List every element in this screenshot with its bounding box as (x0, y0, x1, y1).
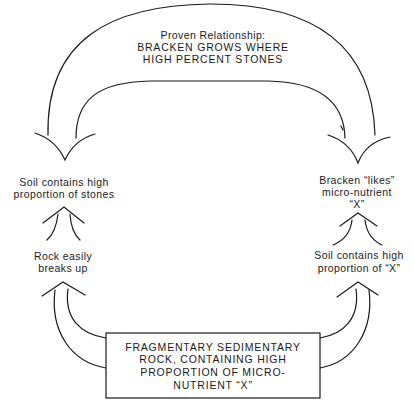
right-middle-arrow (333, 213, 382, 245)
bottom-left-arrow-inner-line (67, 289, 106, 338)
bottom-left-arrow (42, 282, 106, 368)
source-box-line-1: FRAGMENTARY SEDIMENTARY (125, 341, 301, 353)
left-middle-arrow (43, 207, 84, 240)
node-bracken-likes-line-3: “X” (349, 198, 364, 210)
left-middle-arrowhead-icon (43, 207, 84, 223)
top-arrow-inner-line (76, 81, 345, 138)
top-right-arrowhead-icon (328, 135, 390, 163)
node-soil-x: Soil contains high proportion of “X” (314, 249, 404, 274)
node-soil-stones-line-1: Soil contains high (19, 176, 109, 188)
right-middle-arrowhead-icon (340, 213, 377, 226)
node-soil-x-line-2: proportion of “X” (318, 262, 401, 274)
node-soil-stones-line-2: proportion of stones (14, 188, 115, 200)
top-right-tick-mark (341, 126, 343, 130)
relationship-line-2: HIGH PERCENT STONES (143, 53, 283, 65)
node-bracken-likes-line-1: Bracken “likes” (319, 174, 395, 186)
bottom-left-arrowhead-icon (42, 282, 85, 296)
bottom-right-arrow-outer-line (320, 290, 370, 368)
bottom-left-arrow-outer-line (54, 290, 106, 368)
node-rock-breaks-line-1: Rock easily (34, 250, 92, 262)
node-bracken-likes-line-2: micro-nutrient (322, 186, 392, 198)
top-left-arrowhead-icon (35, 133, 95, 160)
source-box: FRAGMENTARY SEDIMENTARY ROCK, CONTAINING… (106, 333, 320, 398)
node-soil-stones: Soil contains high proportion of stones (14, 176, 115, 200)
bottom-right-arrow (320, 282, 378, 368)
left-middle-arrow-line-left (47, 214, 58, 240)
source-box-line-2: ROCK, CONTAINING HIGH (139, 353, 286, 365)
top-curved-arrow (35, 4, 390, 163)
source-box-line-3: PROPORTION OF MICRO- (140, 366, 285, 378)
node-bracken-likes: Bracken “likes” micro-nutrient “X” (319, 174, 395, 210)
relationship-line-1: BRACKEN GROWS WHERE (137, 41, 289, 53)
top-arrow-outer-line (48, 4, 375, 135)
node-rock-breaks-line-2: breaks up (38, 262, 88, 274)
top-relationship-text: Proven Relationship: BRACKEN GROWS WHERE… (137, 29, 289, 65)
bottom-right-arrowhead-icon (337, 282, 378, 297)
relationship-title: Proven Relationship: (161, 29, 266, 41)
source-box-line-4: NUTRIENT “X” (173, 379, 252, 391)
causal-diagram: Proven Relationship: BRACKEN GROWS WHERE… (0, 0, 413, 408)
node-soil-x-line-1: Soil contains high (314, 249, 404, 261)
node-rock-breaks: Rock easily breaks up (34, 250, 92, 274)
